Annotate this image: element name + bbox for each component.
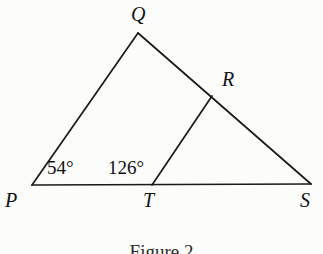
vertex-label-q: Q — [131, 4, 145, 24]
geometry-figure: Q R P T S 54° 126° Figure 2 — [0, 0, 323, 254]
angle-label-at-t: 126° — [108, 158, 144, 177]
vertex-label-t: T — [143, 190, 154, 210]
vertex-label-p: P — [5, 190, 17, 210]
vertex-label-r: R — [222, 69, 234, 89]
segment-tr — [152, 96, 212, 185]
figure-caption: Figure 2 — [0, 242, 323, 254]
vertex-label-s: S — [300, 190, 310, 210]
angle-label-at-p: 54° — [47, 158, 74, 177]
segment-ps — [32, 184, 311, 185]
figure-drawing — [0, 0, 323, 254]
segment-qs — [138, 33, 311, 184]
